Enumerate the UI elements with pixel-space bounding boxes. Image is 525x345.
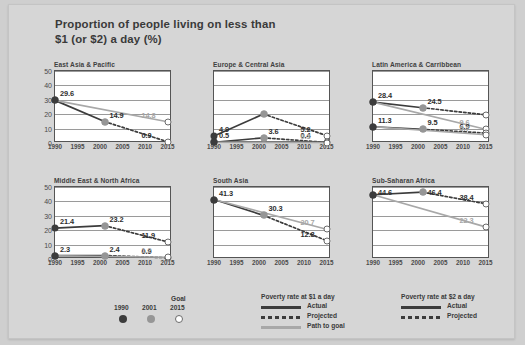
x-axis-tick: 2010: [456, 143, 470, 150]
panel-title: Middle East & North Africa: [54, 177, 140, 184]
panel-title: Latin America & Carribbean: [372, 61, 461, 68]
x-axis-tick: 1990: [48, 143, 62, 150]
x-axis-tick: 2005: [115, 143, 129, 150]
series-line: [105, 122, 168, 142]
data-point-marker: [482, 200, 489, 207]
series-lines: [373, 71, 490, 143]
data-value-label: 9.5: [428, 118, 438, 127]
data-value-label: 5.7: [460, 124, 470, 133]
x-axis-tick: 2000: [411, 259, 425, 266]
plot-area: 1990199520002005201020154.95.20.53.60.40…: [213, 70, 330, 142]
data-point-marker: [101, 222, 108, 229]
panel-title: Sub-Saharan Africa: [372, 177, 435, 184]
x-axis-tick: 1995: [229, 143, 243, 150]
y-axis-tick: 10: [44, 125, 52, 132]
plot-area: 19901995200020052010201528.424.59.611.39…: [372, 70, 489, 142]
panel-title: Europe & Central Asia: [213, 61, 284, 68]
x-axis-tick: 2005: [433, 259, 447, 266]
y-axis-tick: 30: [44, 212, 52, 219]
x-axis-tick: 2010: [297, 143, 311, 150]
data-value-label: 21.4: [60, 217, 74, 226]
x-axis-tick: 2005: [115, 259, 129, 266]
data-point-marker: [419, 189, 426, 196]
x-axis-tick: 2000: [93, 143, 107, 150]
data-point-marker: [211, 196, 218, 203]
y-axis-tick: 40: [44, 82, 52, 89]
legend-label: Actual: [447, 302, 467, 309]
data-point-marker: [323, 237, 330, 244]
plot-area: 19901995200020052010201544.646.438.422.3: [372, 186, 489, 258]
data-value-label: 38.4: [460, 193, 474, 202]
legend-label: Projected: [307, 312, 337, 319]
data-value-label: 11.3: [378, 116, 392, 125]
x-axis-tick: 2000: [252, 259, 266, 266]
x-axis-tick: 1995: [229, 259, 243, 266]
page-title: Proportion of people living on less than…: [55, 17, 385, 47]
legend-swatch: [261, 306, 301, 309]
series-line: [105, 226, 168, 242]
data-point-marker: [260, 212, 267, 219]
plot-area: 0102030405019901995200020052010201521.42…: [54, 186, 171, 258]
legend-label: Projected: [447, 312, 477, 319]
x-axis-tick: 2000: [93, 259, 107, 266]
legend-swatch: [401, 316, 441, 319]
legend-heading: Poverty rate at $2 a day: [401, 293, 475, 300]
data-point-marker: [370, 123, 377, 130]
y-axis-tick: 50: [44, 184, 52, 191]
data-point-marker: [323, 226, 330, 233]
data-point-marker: [482, 131, 489, 138]
x-axis-tick: 2015: [478, 259, 492, 266]
data-point-marker: [482, 111, 489, 118]
data-point-marker: [52, 97, 59, 104]
legend-block: Poverty rate at $2 a dayActualProjected: [401, 293, 475, 323]
plot-area: 19901995200020052010201541.330.312.820.7: [213, 186, 330, 258]
series-line: [373, 102, 423, 108]
legend-heading: Poverty rate at $1 a day: [261, 293, 335, 300]
data-value-label: 3.6: [269, 127, 279, 136]
data-value-label: 30.3: [269, 204, 283, 213]
data-value-label: 22.3: [460, 216, 474, 225]
page-title-line1: Proportion of people living on less than: [55, 17, 385, 32]
x-axis-tick: 2015: [478, 143, 492, 150]
page-title-line2: $1 (or $2) a day (%): [55, 32, 385, 47]
series-line: [55, 100, 105, 121]
legend-label: Path to goal: [307, 322, 345, 329]
x-axis-tick: 2000: [411, 143, 425, 150]
data-point-marker: [52, 225, 59, 232]
legend-swatch: [401, 306, 441, 309]
data-value-label: 2.4: [110, 245, 120, 254]
data-point-marker: [323, 139, 330, 146]
data-value-label: 23.2: [110, 215, 124, 224]
data-point-marker: [211, 139, 218, 146]
chart-figure: Proportion of people living on less than…: [8, 4, 515, 339]
legend-block: Poverty rate at $1 a dayActualProjectedP…: [261, 293, 335, 333]
data-value-label: 0.3: [301, 132, 311, 141]
x-axis-tick: 1995: [388, 143, 402, 150]
y-axis-tick: 20: [44, 111, 52, 118]
data-value-label: 41.3: [219, 189, 233, 198]
data-value-label: 44.6: [378, 188, 392, 197]
data-value-label: 0.5: [219, 131, 229, 140]
data-value-label: 12.8: [301, 230, 315, 239]
x-axis-tick: 1990: [207, 259, 221, 266]
data-value-label: 29.6: [60, 89, 74, 98]
legend-row: Projected: [401, 313, 475, 323]
x-axis-tick: 2010: [456, 259, 470, 266]
data-value-label: 20.7: [301, 218, 315, 227]
x-axis-tick: 1995: [70, 259, 84, 266]
legend-swatch: [261, 316, 301, 319]
data-point-marker: [164, 118, 171, 125]
data-point-marker: [52, 252, 59, 259]
x-axis-tick: 1990: [366, 143, 380, 150]
legend-year-label: 2015: [170, 304, 185, 311]
data-point-marker: [370, 191, 377, 198]
data-value-label: 2.3: [60, 245, 70, 254]
data-value-label: 14.9: [110, 111, 124, 120]
legend-year-label: 1990: [114, 304, 129, 311]
legend-label: Actual: [307, 302, 327, 309]
y-axis-tick: 40: [44, 198, 52, 205]
plot-area: 0102030405019901995200020052010201529.61…: [54, 70, 171, 142]
data-point-marker: [164, 238, 171, 245]
data-point-marker: [101, 118, 108, 125]
legend-year-marker: [175, 315, 183, 323]
